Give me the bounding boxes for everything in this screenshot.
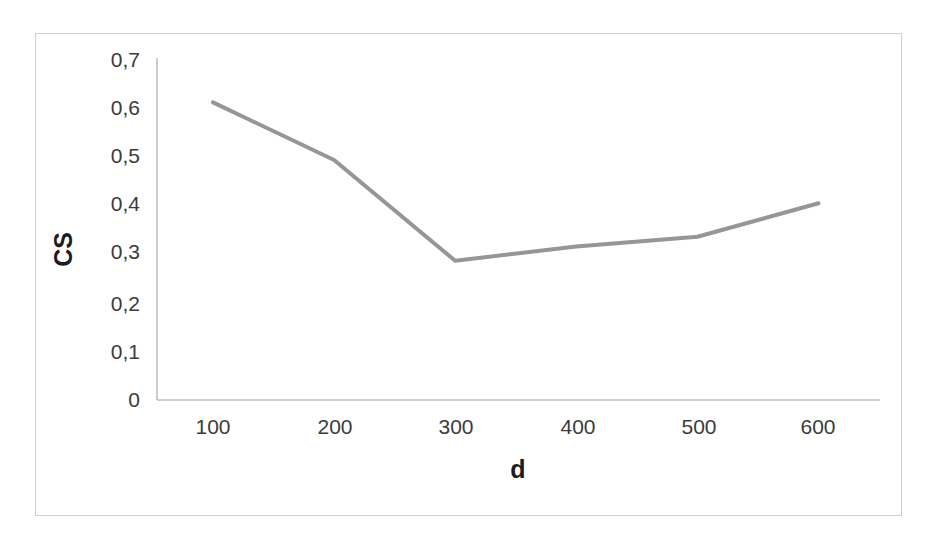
y-tick-label-0.2: 0,2 xyxy=(85,292,140,316)
y-tick-label-0: 0 xyxy=(85,388,140,412)
x-axis-title: d xyxy=(510,455,525,484)
chart-border-frame xyxy=(35,33,902,516)
x-tick-label-300: 300 xyxy=(438,415,473,439)
x-tick-label-200: 200 xyxy=(317,415,352,439)
chart-figure: 0,7 0,6 0,5 0,4 0,3 0,2 0,1 0 100 200 30… xyxy=(0,0,935,550)
y-tick-label-0.6: 0,6 xyxy=(85,96,140,120)
x-tick-label-100: 100 xyxy=(195,415,230,439)
x-tick-label-600: 600 xyxy=(800,415,835,439)
y-tick-label-0.4: 0,4 xyxy=(85,192,140,216)
y-axis-title: CS xyxy=(49,232,78,267)
x-tick-label-400: 400 xyxy=(560,415,595,439)
y-tick-label-0.3: 0,3 xyxy=(85,240,140,264)
y-tick-label-0.5: 0,5 xyxy=(85,144,140,168)
x-tick-label-500: 500 xyxy=(681,415,716,439)
y-tick-label-0.7: 0,7 xyxy=(85,48,140,72)
y-tick-label-0.1: 0,1 xyxy=(85,340,140,364)
